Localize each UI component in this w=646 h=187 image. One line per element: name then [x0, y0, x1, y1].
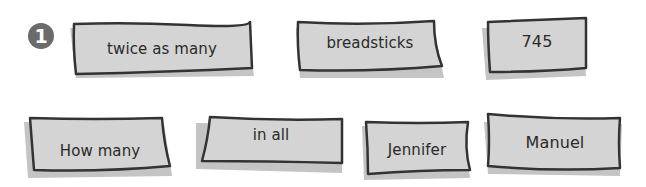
card-label: 745: [482, 14, 592, 80]
word-card-jennifer[interactable]: Jennifer: [360, 118, 474, 180]
word-card-twice-as-many[interactable]: twice as many: [68, 18, 256, 80]
word-card-how-many[interactable]: How many: [24, 114, 176, 178]
card-label: Jennifer: [360, 118, 474, 180]
word-card-breadsticks[interactable]: breadsticks: [294, 16, 446, 78]
card-label: How many: [24, 114, 176, 178]
word-card-manuel[interactable]: Manuel: [484, 112, 626, 178]
card-label: breadsticks: [294, 16, 446, 78]
word-card-in-all[interactable]: in all: [196, 113, 346, 175]
problem-number-badge: 1: [28, 23, 54, 49]
card-label: in all: [196, 113, 346, 175]
card-label: Manuel: [484, 112, 626, 178]
word-card-745[interactable]: 745: [482, 14, 592, 80]
card-label: twice as many: [68, 18, 256, 80]
